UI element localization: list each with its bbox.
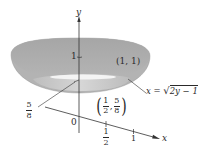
x-tick-half-label: 1 2 [103, 128, 109, 147]
five-eighths-denominator: 8 [26, 112, 31, 120]
point-top-label: (1, 1) [116, 57, 140, 66]
close-paren: ) [121, 96, 126, 116]
y-axis-label: y [76, 8, 81, 17]
y-level-five-eighths-label: 5 8 [26, 101, 32, 120]
curve-equation-lhs: x = [146, 87, 163, 96]
point-bottom-y: 5 8 [114, 97, 120, 116]
bowl-hole [50, 75, 116, 80]
y-tick-1-label: 1 [71, 52, 77, 61]
point-bottom-y-den: 8 [114, 107, 119, 115]
curve-equation-label: x = √ 2y − 1 [146, 85, 198, 96]
point-bottom-x-den: 2 [103, 107, 108, 115]
origin-label: 0 [71, 118, 77, 127]
x-tick-1-label: 1 [131, 135, 136, 143]
x-axis-arrow [152, 135, 160, 139]
x-axis-label: x [162, 134, 167, 143]
point-bottom-label: ( 1 2 , 5 8 ) [95, 96, 128, 116]
five-eighths-numerator: 5 [26, 101, 31, 109]
leader-line-curve [128, 79, 146, 93]
open-paren: ( [96, 96, 101, 116]
curve-equation-radicand: 2y − 1 [170, 85, 198, 96]
surface-of-revolution-figure: y 1 (1, 1) 0 x 1 1 2 5 8 ( 1 2 , 5 8 ) x… [0, 0, 204, 152]
comma: , [110, 101, 113, 111]
point-bottom-y-num: 5 [114, 97, 119, 105]
point-bottom-x: 1 2 [103, 97, 109, 116]
x-tick-half-denominator: 2 [103, 139, 108, 147]
point-bottom-x-num: 1 [103, 97, 108, 105]
x-tick-half-numerator: 1 [103, 128, 108, 136]
diagram-canvas [0, 0, 204, 152]
